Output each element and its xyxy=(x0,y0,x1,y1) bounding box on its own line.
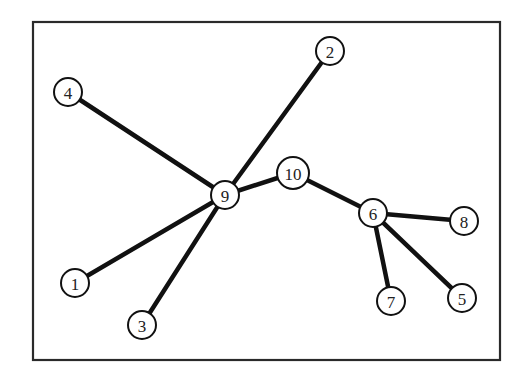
node-label: 2 xyxy=(326,43,335,62)
node-8: 8 xyxy=(450,207,478,235)
node-label: 7 xyxy=(387,293,396,312)
edge-9-1 xyxy=(75,195,225,283)
node-label: 4 xyxy=(64,84,73,103)
edge-9-4 xyxy=(68,92,225,195)
node-label: 8 xyxy=(460,213,469,232)
node-7: 7 xyxy=(377,287,405,315)
node-label: 3 xyxy=(138,317,147,336)
node-layer: 12345678910 xyxy=(54,37,478,339)
diagram-frame xyxy=(33,22,500,360)
node-label: 9 xyxy=(221,187,230,206)
node-1: 1 xyxy=(61,269,89,297)
node-6: 6 xyxy=(359,199,387,227)
node-9: 9 xyxy=(211,181,239,209)
tree-diagram: 12345678910 xyxy=(0,0,531,387)
node-3: 3 xyxy=(128,311,156,339)
node-10: 10 xyxy=(277,157,309,189)
node-5: 5 xyxy=(448,284,476,312)
node-2: 2 xyxy=(316,37,344,65)
node-label: 10 xyxy=(285,165,302,184)
node-4: 4 xyxy=(54,78,82,106)
edge-layer xyxy=(68,51,464,325)
edge-9-3 xyxy=(142,195,225,325)
node-label: 6 xyxy=(369,205,378,224)
node-label: 5 xyxy=(458,290,467,309)
node-label: 1 xyxy=(71,275,80,294)
